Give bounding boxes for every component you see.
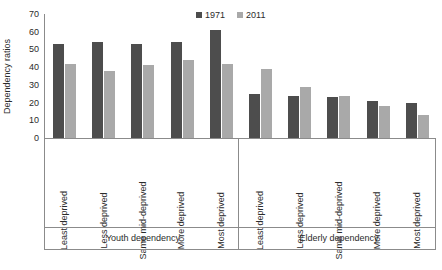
y-tick-label-40: 40 [29,63,39,72]
bar-1971-less-deprived [288,96,299,139]
y-axis-title-text: Dependency ratios [4,38,13,113]
plot-area [44,14,436,138]
bar-1971-least-deprived [249,94,260,138]
category-label-cell: Least deprived [241,139,280,227]
bar-2011-most-deprived [222,64,233,138]
category-label-cell: Least deprived [45,139,84,227]
bar-1971-least-deprived [53,44,64,138]
y-tick-label-0: 0 [34,134,39,143]
bar-1971-more-deprived [171,42,182,138]
bar-2011-same-mid-deprived [339,96,350,139]
bar-2011-same-mid-deprived [143,65,154,138]
category-label-cell: More deprived [359,139,398,227]
y-tick-label-30: 30 [29,80,39,89]
bar-2011-less-deprived [300,87,311,138]
bar-group [398,14,437,138]
group-label-band: Youth dependencyElderly dependency [44,228,436,250]
category-label-cell: Less deprived [84,139,123,227]
y-axis-tick-labels: 706050403020100 [18,14,42,138]
bar-1971-most-deprived [406,103,417,138]
bar-2011-least-deprived [261,69,272,138]
category-label-cell: Same mid-deprived [319,139,358,227]
group-label-youth-dependency: Youth dependency [45,228,241,249]
group-label-elderly-dependency: Elderly dependency [241,228,437,249]
bar-2011-less-deprived [104,71,115,138]
category-label-band: Least deprivedLess deprivedSame mid-depr… [44,139,436,228]
bar-1971-same-mid-deprived [327,97,338,138]
bar-group [123,14,162,138]
category-label-cell: Same mid-deprived [123,139,162,227]
bar-group [45,14,84,138]
y-tick-label-60: 60 [29,27,39,36]
bars-container [45,14,436,138]
bar-2011-least-deprived [65,64,76,138]
bar-group [319,14,358,138]
category-label-cell: Less deprived [280,139,319,227]
bar-chart-figure: 19712011 Dependency ratios 7060504030201… [0,0,442,270]
bar-2011-most-deprived [418,115,429,138]
bar-1971-same-mid-deprived [131,44,142,138]
bar-group [359,14,398,138]
y-tick-label-10: 10 [29,116,39,125]
y-axis-title: Dependency ratios [0,0,16,152]
y-tick-label-70: 70 [29,10,39,19]
bar-group [163,14,202,138]
bar-group [84,14,123,138]
bar-2011-more-deprived [379,106,390,138]
bar-group [202,14,241,138]
category-label-cell: More deprived [163,139,202,227]
bar-1971-less-deprived [92,42,103,138]
bar-2011-more-deprived [183,60,194,138]
category-label-cell: Most deprived [202,139,241,227]
bar-group [280,14,319,138]
y-tick-label-20: 20 [29,98,39,107]
bar-1971-more-deprived [367,101,378,138]
bar-1971-most-deprived [210,30,221,138]
y-tick-label-50: 50 [29,45,39,54]
bar-group [241,14,280,138]
category-label-cell: Most deprived [398,139,437,227]
